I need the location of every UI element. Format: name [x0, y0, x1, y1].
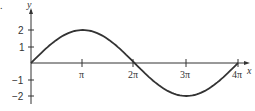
x-ticks: π 2π 3π 4π — [79, 59, 242, 80]
y-tick-2: 2 — [18, 25, 24, 36]
y-tick-neg1: −1 — [12, 75, 24, 86]
x-axis-label: x — [246, 65, 252, 76]
x-tick-pi: π — [79, 69, 84, 80]
y-tick-neg2: −2 — [12, 91, 24, 102]
chart: . y x 2 1 −1 −2 π 2π 3π 4π — [0, 0, 255, 111]
x-tick-2pi: 2π — [128, 69, 138, 80]
y-tick-1: 1 — [19, 42, 25, 53]
x-tick-3pi: 3π — [180, 69, 190, 80]
panel-label: . — [0, 0, 3, 11]
y-axis-label: y — [26, 0, 32, 10]
x-tick-4pi: 4π — [232, 69, 242, 80]
